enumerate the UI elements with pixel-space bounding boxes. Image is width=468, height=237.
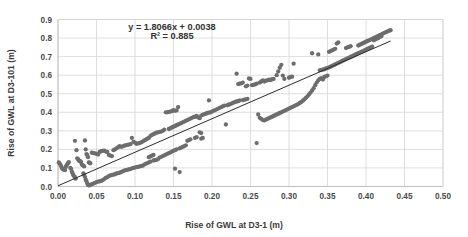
scatter-point: [224, 122, 228, 126]
scatter-point: [73, 139, 77, 143]
y-tick-label: 0.3: [41, 127, 53, 136]
chart-canvas: 0.000.050.100.150.200.250.300.350.400.45…: [0, 0, 468, 237]
x-tick-label: 0.05: [89, 192, 105, 201]
scatter-point: [279, 63, 283, 67]
scatter-point: [248, 77, 252, 81]
y-tick-label: 0.5: [41, 90, 53, 99]
scatter-point: [176, 105, 180, 109]
scatter-point: [84, 147, 88, 151]
x-tick-label: 0.00: [50, 192, 66, 201]
scatter-point: [173, 167, 177, 171]
scatter-point: [241, 80, 245, 84]
scatter-point: [83, 138, 87, 142]
chart-background: [0, 0, 468, 237]
x-tick-label: 0.35: [320, 192, 336, 201]
y-tick-label: 0.4: [41, 108, 53, 117]
scatter-point: [184, 143, 188, 147]
y-tick-label: 0.7: [41, 53, 53, 62]
y-tick-label: 0.6: [41, 71, 53, 80]
r-squared-label: R² = 0.885: [150, 31, 193, 41]
scatter-point: [74, 148, 78, 152]
scatter-point: [255, 141, 259, 145]
scatter-point: [282, 77, 286, 81]
scatter-point: [67, 160, 71, 164]
scatter-point: [194, 135, 198, 139]
y-tick-label: 0.9: [41, 16, 53, 25]
scatter-point: [271, 77, 275, 81]
scatter-point: [82, 164, 86, 168]
y-tick-label: 0.8: [41, 34, 53, 43]
scatter-point: [373, 37, 377, 41]
scatter-point: [110, 154, 114, 158]
x-tick-label: 0.15: [166, 192, 182, 201]
scatter-point: [316, 52, 320, 56]
x-tick-label: 0.25: [243, 192, 259, 201]
x-tick-label: 0.45: [397, 192, 413, 201]
scatter-point: [162, 128, 166, 132]
scatter-point: [388, 28, 392, 32]
y-tick-label: 0.0: [41, 183, 53, 192]
y-axis-title: Rise of GWL at D3-101 (m): [6, 49, 16, 156]
scatter-point: [199, 131, 203, 135]
scatter-point: [276, 69, 280, 73]
scatter-point: [151, 153, 155, 157]
x-tick-label: 0.30: [281, 192, 297, 201]
scatter-point: [333, 47, 337, 51]
scatter-point: [336, 40, 340, 44]
scatter-point: [234, 72, 238, 76]
scatter-point: [310, 51, 314, 55]
scatter-point: [130, 136, 134, 140]
x-tick-label: 0.20: [204, 192, 220, 201]
x-tick-label: 0.10: [127, 192, 143, 201]
scatter-point: [88, 161, 92, 165]
scatter-point: [245, 97, 249, 101]
x-axis-title: Rise of GWL at D3-1 (m): [185, 220, 283, 230]
scatter-point: [348, 44, 352, 48]
scatter-point: [178, 170, 182, 174]
scatter-point: [290, 75, 294, 79]
x-tick-label: 0.40: [358, 192, 374, 201]
scatter-point: [275, 73, 279, 77]
y-tick-label: 0.1: [41, 164, 53, 173]
scatter-point: [207, 98, 211, 102]
scatter-point: [201, 136, 205, 140]
scatter-point: [86, 155, 90, 159]
scatter-point: [188, 137, 192, 141]
scatter-point: [325, 73, 329, 77]
scatter-chart-figure: 0.000.050.100.150.200.250.300.350.400.45…: [0, 0, 468, 237]
scatter-point: [291, 62, 295, 66]
y-tick-label: 0.2: [41, 145, 53, 154]
scatter-point: [245, 83, 249, 87]
x-tick-label: 0.50: [435, 192, 451, 201]
